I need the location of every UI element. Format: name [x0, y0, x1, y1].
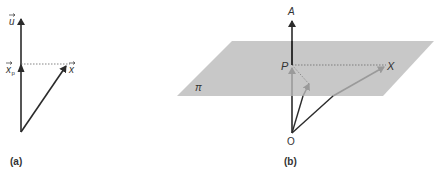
plane-pi: [177, 41, 434, 96]
svg-text:x: x: [68, 64, 75, 75]
label-p: P: [281, 60, 289, 72]
label-xp: x p: [5, 62, 16, 77]
label-x: X: [386, 60, 395, 72]
figure-b: π A P X O (b): [177, 6, 434, 167]
label-o: O: [287, 136, 295, 147]
label-a: A: [287, 6, 295, 17]
caption-b: (b): [284, 156, 297, 167]
svg-text:u: u: [9, 16, 15, 27]
figure-a: u x p x (a): [5, 14, 75, 168]
label-x: x: [68, 62, 75, 76]
label-u: u: [9, 14, 15, 28]
caption-a: (a): [10, 156, 22, 167]
vector-x: [21, 66, 66, 132]
svg-text:p: p: [12, 70, 16, 76]
label-plane-pi: π: [195, 82, 202, 93]
diagram-canvas: u x p x (a) π A: [0, 0, 439, 180]
